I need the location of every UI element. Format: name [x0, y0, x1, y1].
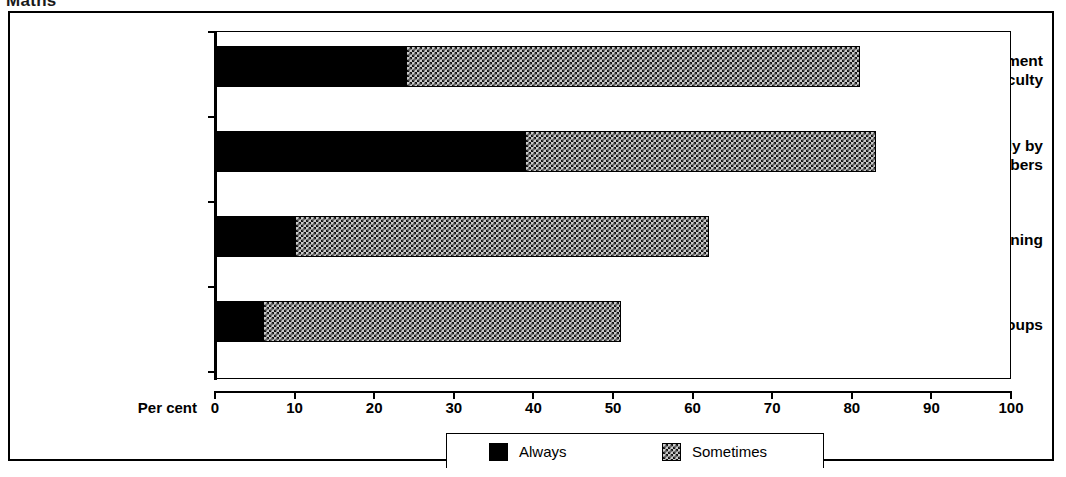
legend-label-sometimes: Sometimes — [692, 443, 767, 460]
x-axis-tick — [1010, 391, 1012, 399]
legend-swatch-sometimes-icon — [662, 443, 681, 461]
x-axis-tick — [851, 391, 853, 399]
legend-entry-always: Always — [489, 441, 567, 462]
bar-segment-always — [215, 216, 295, 257]
x-axis-tick-label: 80 — [830, 399, 874, 416]
bar-segment-sometimes — [525, 131, 875, 172]
x-axis-tick — [771, 391, 773, 399]
x-axis-tick — [453, 391, 455, 399]
x-axis-tick-label: 40 — [511, 399, 555, 416]
x-axis-tick — [373, 391, 375, 399]
x-axis-tick-label: 70 — [750, 399, 794, 416]
bar-segment-sometimes — [263, 301, 621, 342]
x-axis-tick-label: 60 — [671, 399, 715, 416]
legend-label-always: Always — [519, 443, 567, 460]
figure-heading: Maths — [6, 0, 57, 11]
x-axis-tick-label: 10 — [273, 399, 317, 416]
bar-segment-always — [215, 131, 525, 172]
legend-entry-sometimes: Sometimes — [662, 441, 767, 462]
x-axis-tick-label: 50 — [591, 399, 635, 416]
x-axis-tick — [930, 391, 932, 399]
scan-edge-artifact — [0, 468, 1066, 477]
x-axis-tick — [214, 391, 216, 399]
bar-segment-always — [215, 301, 263, 342]
x-axis-tick-label: 20 — [352, 399, 396, 416]
x-axis-tick-label: 100 — [989, 399, 1033, 416]
bar-segment-sometimes — [295, 216, 709, 257]
x-axis-tick-label: 0 — [193, 399, 237, 416]
x-axis-tick — [692, 391, 694, 399]
x-axis-tick — [532, 391, 534, 399]
legend-swatch-always-icon — [489, 443, 508, 461]
x-axis-title: Per cent — [138, 399, 197, 416]
chart-frame: As a whole department or faculty Individ… — [8, 11, 1054, 461]
x-axis-tick — [612, 391, 614, 399]
bar-segment-always — [215, 46, 406, 87]
x-axis-tick-label: 90 — [909, 399, 953, 416]
x-axis-tick — [294, 391, 296, 399]
x-axis-tick-label: 30 — [432, 399, 476, 416]
bar-segment-sometimes — [406, 46, 860, 87]
legend: Always Sometimes — [446, 433, 824, 469]
